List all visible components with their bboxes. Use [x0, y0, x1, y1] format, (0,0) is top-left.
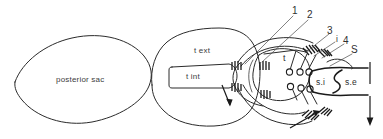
diagram-canvas: [0, 0, 383, 139]
joint-circle: [297, 69, 303, 75]
lever-arms-group: [286, 51, 317, 104]
label-t-int: t int: [186, 72, 200, 81]
muscle-block-tint-upper: [232, 61, 241, 70]
leader-line-S: [330, 54, 352, 66]
leader-line-i: [314, 42, 335, 56]
joint-circle: [286, 69, 292, 75]
muscle-block-lower-right-2: [318, 107, 332, 116]
label-1: 1: [292, 6, 298, 15]
label-S: S: [351, 45, 358, 54]
arrow-down-margin-icon: [367, 62, 374, 126]
anatomical-diagram: posterior sac t ext t int t 1 2 3 i 4 S …: [0, 0, 383, 139]
label-s-e: s.e: [345, 78, 357, 87]
label-t-ext: t ext: [194, 46, 210, 55]
label-2: 2: [307, 10, 313, 19]
muscle-block-funnel-upper: [260, 61, 269, 70]
label-3: 3: [327, 26, 333, 35]
funnel-complex-outline: [233, 38, 313, 125]
label-i: i: [336, 35, 338, 44]
label-4: 4: [343, 36, 349, 45]
joint-circle: [298, 85, 304, 91]
t-int-box: [169, 64, 237, 88]
mantle-body-shape: [152, 28, 260, 126]
label-posterior-sac: posterior sac: [56, 75, 104, 84]
label-s-i: s.i: [316, 78, 325, 87]
joint-circle: [287, 83, 293, 89]
label-t: t: [283, 54, 286, 63]
